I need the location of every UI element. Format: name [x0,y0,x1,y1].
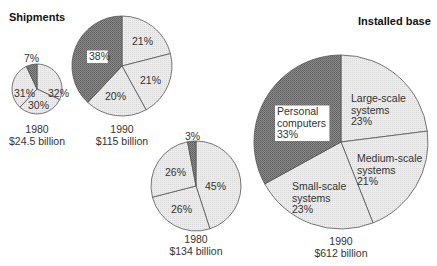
slice-label: systems [351,104,390,116]
slice-label: 7% [24,52,39,64]
slice-label: 30% [28,99,49,111]
pie-shipments-1980: 32%30%31%7%1980$24.5 billion [9,52,69,147]
pie-installed-base-1990: Large-scalesystems23%Medium-scalesystems… [254,55,428,259]
pie-total: $24.5 billion [9,135,65,147]
slice-label: 38% [89,50,110,62]
slice-label: systems [292,192,331,204]
slice-label: 21% [357,175,378,187]
pie-year: 1980 [25,123,49,135]
slice-label: Medium-scale [357,152,423,164]
slice-label: 23% [292,203,313,215]
slice-label: 20% [105,90,126,102]
slice-label: systems [357,164,396,176]
pie-charts: 32%30%31%7%1980$24.5 billion21%21%20%38%… [0,0,437,266]
pie-total: $134 billion [169,245,222,257]
slice-label: 21% [140,74,161,86]
pie-year: 1980 [184,233,208,245]
pie-shipments-1990: 21%21%20%38%1990$115 billion [72,16,172,147]
slice-label: 31% [14,87,35,99]
slice-label: 26% [165,166,186,178]
slice-label: 32% [48,87,69,99]
slice-label: 3% [185,130,200,142]
slice-label: 21% [132,35,153,47]
slice-label: 23% [351,115,372,127]
slice-label: 33% [277,128,298,140]
slice-label: Personal [277,105,318,117]
pie-installed-base-1980: 45%26%26%3%1980$134 billion [151,130,241,257]
slice-label: 45% [205,180,226,192]
slice-label: 26% [171,203,192,215]
slice-label: Small-scale [292,180,346,192]
pie-total: $115 billion [96,135,149,147]
pie-year: 1990 [329,235,353,247]
slice-label: Large-scale [351,92,406,104]
slice-label: computers [277,117,326,129]
pie-total: $612 billion [314,247,367,259]
pie-year: 1990 [110,123,134,135]
